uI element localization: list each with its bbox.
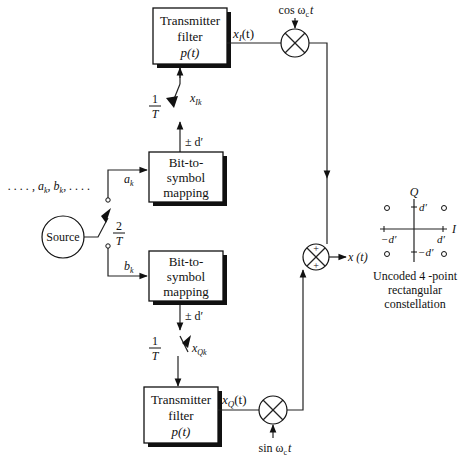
xq-label: xQ(t) — [221, 392, 247, 409]
mixer-q-to-summer-line — [287, 270, 303, 410]
bit-to-symbol-mapper-q: Bit-to- symbol mapping — [149, 251, 227, 305]
ak-label: ak — [124, 172, 134, 188]
svg-text:mapping: mapping — [163, 284, 209, 299]
sin-carrier-label: sin ωct — [259, 441, 292, 457]
output-label: x (t) — [347, 250, 368, 264]
mixer-q-multiplier-icon — [259, 396, 287, 424]
filter-i-line3: p(t) — [180, 45, 200, 60]
q-axis-label: Q — [410, 185, 419, 199]
svg-text:symbol: symbol — [167, 170, 206, 185]
summer-adder-icon: + + — [303, 243, 329, 271]
svg-text:Bit-to-: Bit-to- — [169, 155, 204, 170]
constellation-caption-2: rectangular — [388, 283, 442, 297]
constellation-caption-1: Uncoded 4 -point — [373, 269, 458, 283]
switch-terminal-a — [106, 198, 110, 202]
input-switch-rate-den: T — [116, 234, 124, 248]
svg-text:+: + — [313, 260, 319, 271]
constellation-caption-3: constellation — [384, 297, 445, 311]
level-q-label: ± d′ — [185, 309, 204, 323]
filter-i-line2: filter — [177, 29, 203, 44]
switch-terminal-b — [106, 244, 110, 248]
svg-text:Source: Source — [46, 230, 79, 244]
tick-pos-i: d′ — [437, 233, 446, 245]
xi-label: xI(t) — [232, 26, 254, 43]
input-switch-rate-num: 2 — [116, 219, 122, 233]
sampler-q-rate-num: 1 — [152, 334, 158, 348]
tick-neg-q: −d′ — [418, 246, 434, 258]
constellation-point — [442, 252, 447, 257]
constellation-plot: Q I d′ −d′ −d′ d′ Uncoded 4 -point recta… — [373, 185, 458, 311]
transmitter-filter-q: Transmitter filter p(t) — [144, 387, 222, 447]
filter-i-line1: Transmitter — [160, 13, 221, 28]
sampler-q-rate-den: T — [152, 349, 160, 363]
sampler-i-rate-num: 1 — [152, 92, 158, 106]
bit-to-symbol-mapper-i: Bit-to- symbol mapping — [149, 152, 227, 206]
transmitter-filter-i: Transmitter filter p(t) — [153, 8, 231, 68]
input-switch-icon — [84, 218, 108, 237]
constellation-point — [385, 252, 390, 257]
cos-carrier-label: cos ωct — [279, 3, 314, 19]
tick-pos-q: d′ — [419, 201, 428, 213]
i-axis-label: I — [451, 222, 457, 236]
svg-text:mapping: mapping — [163, 185, 209, 200]
svg-text:Bit-to-: Bit-to- — [169, 254, 204, 269]
constellation-point — [442, 206, 447, 211]
level-i-label: ± d′ — [185, 135, 204, 149]
source-block: Source — [42, 216, 84, 258]
tick-neg-i: −d′ — [381, 233, 397, 245]
svg-text:Transmitter: Transmitter — [151, 392, 212, 407]
mixer-i-multiplier-icon — [281, 29, 309, 57]
svg-text:filter: filter — [168, 408, 194, 423]
svg-text:symbol: symbol — [167, 269, 206, 284]
qpsk-transmitter-diagram: Transmitter filter p(t) xI(t) cos ωct 1 … — [0, 0, 466, 458]
mixer-i-to-summer-line — [309, 43, 327, 178]
input-switch-rotation-arrow-icon — [101, 208, 111, 223]
sampler-i-rate-den: T — [152, 107, 160, 121]
bit-sequence-label: . . . . , ak, bk, . . . . — [8, 179, 90, 195]
bk-label: bk — [124, 259, 134, 275]
sampler-i-rotation-arrow-icon — [166, 96, 178, 108]
svg-text:p(t): p(t) — [171, 424, 191, 439]
constellation-point — [385, 206, 390, 211]
xik-label: xIk — [189, 91, 202, 107]
svg-text:+: + — [313, 243, 319, 254]
xqk-label: xQk — [191, 341, 207, 357]
